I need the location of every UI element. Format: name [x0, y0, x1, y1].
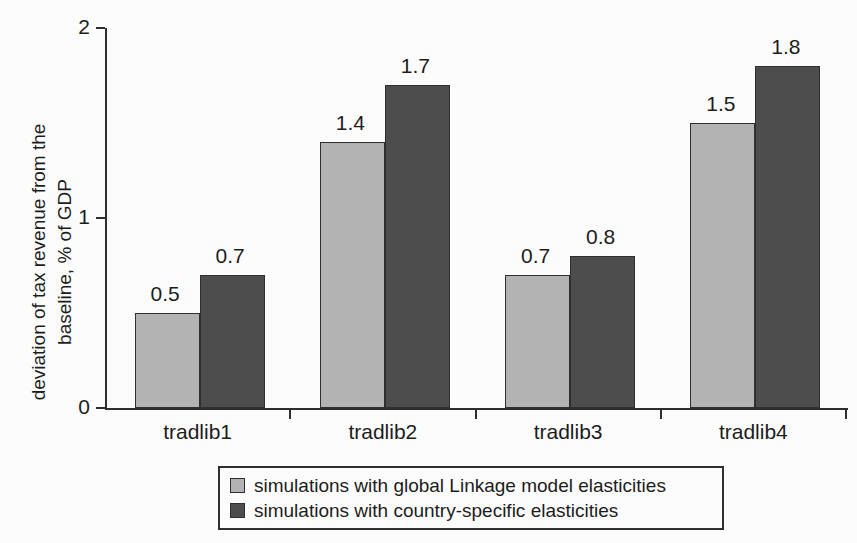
y-axis-tick-mark	[96, 407, 105, 409]
bar-value-label: 1.4	[318, 111, 383, 135]
legend-label-country: simulations with country-specific elasti…	[254, 500, 618, 522]
x-axis-category-label: tradlib3	[476, 420, 661, 444]
x-axis-tick-mark	[289, 410, 291, 419]
chart-figure: deviation of tax revenue from the baseli…	[0, 0, 857, 543]
y-axis-tick-mark	[96, 27, 105, 29]
bar-country-specific	[570, 256, 635, 408]
legend-label-global: simulations with global Linkage model el…	[254, 475, 666, 497]
x-axis-tick-mark	[475, 410, 477, 419]
bar-value-label: 0.7	[503, 244, 568, 268]
bar-value-label: 1.5	[688, 92, 753, 116]
legend-item-global: simulations with global Linkage model el…	[230, 475, 722, 497]
bar-value-label: 1.8	[753, 35, 818, 59]
bar-global-elasticities	[320, 142, 385, 408]
y-axis-tick-mark	[96, 217, 105, 219]
bar-value-label: 1.7	[383, 54, 448, 78]
legend-box: simulations with global Linkage model el…	[218, 466, 724, 530]
y-axis-label-line1: deviation of tax revenue from the	[26, 97, 52, 427]
y-axis-label: deviation of tax revenue from the baseli…	[26, 97, 78, 427]
y-axis-tick-label: 2	[60, 15, 90, 39]
y-axis-label-line2: baseline, % of GDP	[52, 97, 78, 427]
legend-item-country: simulations with country-specific elasti…	[230, 500, 722, 522]
x-axis-category-label: tradlib2	[290, 420, 475, 444]
plot-area	[105, 28, 848, 410]
bar-country-specific	[385, 85, 450, 408]
bar-value-label: 0.5	[133, 282, 198, 306]
bar-global-elasticities	[135, 313, 200, 408]
x-axis-tick-mark	[845, 410, 847, 419]
legend-swatch-light	[230, 478, 245, 493]
bar-value-label: 0.8	[568, 225, 633, 249]
bar-global-elasticities	[505, 275, 570, 408]
legend-swatch-dark	[230, 503, 245, 518]
bar-country-specific	[200, 275, 265, 408]
x-axis-tick-mark	[660, 410, 662, 419]
bar-country-specific	[755, 66, 820, 408]
y-axis-tick-label: 1	[60, 205, 90, 229]
bar-value-label: 0.7	[198, 244, 263, 268]
x-axis-category-label: tradlib1	[105, 420, 290, 444]
y-axis-tick-label: 0	[60, 395, 90, 419]
bar-global-elasticities	[690, 123, 755, 408]
x-axis-category-label: tradlib4	[661, 420, 846, 444]
